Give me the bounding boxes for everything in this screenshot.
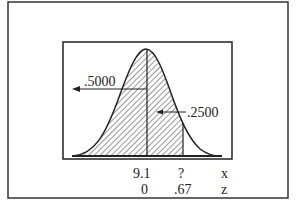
normal-curve-diagram: .5000 .2500 9.1 ? x 0 .67 z bbox=[0, 0, 296, 206]
z-value-mean: 0 bbox=[141, 182, 148, 197]
right-area-label: .2500 bbox=[187, 105, 219, 120]
x-value-unknown: ? bbox=[178, 166, 184, 181]
arrow-left-icon bbox=[72, 86, 80, 92]
x-value-mean: 9.1 bbox=[133, 166, 151, 181]
shaded-area bbox=[73, 49, 183, 156]
z-value-boundary: .67 bbox=[174, 182, 192, 197]
x-axis-label: x bbox=[221, 166, 228, 181]
left-area-label: .5000 bbox=[84, 74, 116, 89]
z-axis-label: z bbox=[221, 182, 227, 197]
